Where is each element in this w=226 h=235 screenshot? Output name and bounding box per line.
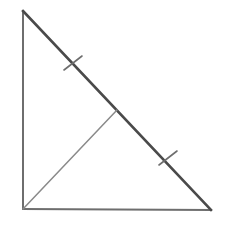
horizontal-leg (23, 209, 211, 210)
geometry-figure-canvas (0, 0, 226, 235)
figure-background (0, 0, 226, 235)
geometry-diagram (0, 0, 226, 235)
